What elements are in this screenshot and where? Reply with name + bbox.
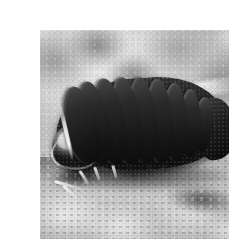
screenshot-root (0, 0, 229, 239)
pillbug-subject (46, 72, 229, 192)
pillbug-photograph (40, 30, 229, 239)
